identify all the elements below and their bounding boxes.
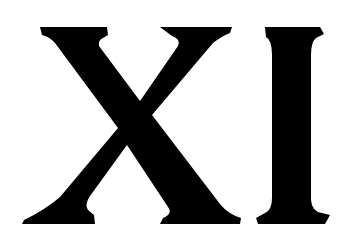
letter-i (256, 27, 330, 224)
letter-x (22, 27, 241, 224)
roman-numeral-canvas: XI (0, 0, 346, 244)
roman-numeral-xi (0, 0, 346, 244)
